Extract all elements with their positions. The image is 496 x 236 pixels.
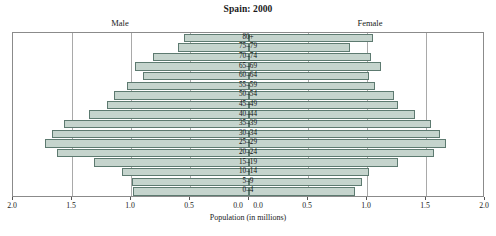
x-tick-male-0.5 [189,197,190,200]
pyramid-row: 55–59 [13,81,483,91]
series-label-female: Female [340,18,400,28]
pyramid-row: 20–24 [13,148,483,158]
bar-female-50–54 [249,91,394,99]
bar-male-0–4 [133,187,249,195]
bar-male-25–29 [45,139,249,147]
bar-female-5–9 [249,178,362,186]
bar-female-35–39 [249,120,431,128]
x-tick-female-0.5 [307,197,308,200]
bar-male-65–69 [135,62,249,70]
pyramid-row: 60–64 [13,71,483,81]
x-tick-label-male-1.5: 1.5 [66,201,76,210]
pyramid-row: 70–74 [13,52,483,62]
bar-male-50–54 [114,91,249,99]
x-tick-female-1.0 [366,197,367,200]
plot-area: 80+75–7970–7465–6960–6455–5950–5445–4940… [12,32,484,197]
bar-female-80+ [249,34,373,42]
pyramid-row: 50–54 [13,91,483,101]
age-group-label: 60–64 [239,71,257,80]
pyramid-row: 0–4 [13,187,483,197]
x-tick-label-female-1.0: 1.0 [361,201,371,210]
bar-female-70–74 [249,53,371,61]
age-group-label: 35–39 [239,119,257,128]
age-group-label: 0–4 [243,186,254,195]
age-group-label: 75–79 [239,42,257,51]
bar-female-0–4 [249,187,355,195]
age-group-label: 20–24 [239,148,257,157]
bar-male-35–39 [64,120,249,128]
bar-male-15–19 [94,158,249,166]
pyramid-row: 15–19 [13,158,483,168]
x-tick-label-male-1.0: 1.0 [125,201,135,210]
x-tick-label-male-0.0: 0.0 [233,201,243,210]
age-group-label: 55–59 [239,81,257,90]
bar-female-15–19 [249,158,398,166]
pyramid-row: 40–44 [13,110,483,120]
bar-female-65–69 [249,62,381,70]
x-axis-title: Population (in millions) [0,213,496,222]
pyramid-row: 75–79 [13,43,483,53]
x-tick-female-2.0 [484,197,485,200]
bar-female-55–59 [249,82,375,90]
pyramid-row: 35–39 [13,119,483,129]
x-tick-male-2.0 [12,197,13,200]
age-group-label: 45–49 [239,100,257,109]
pyramid-row: 65–69 [13,62,483,72]
age-group-label: 70–74 [239,52,257,61]
bar-male-80+ [184,34,249,42]
bar-female-60–64 [249,72,369,80]
bar-female-30–34 [249,130,440,138]
age-group-label: 25–29 [239,138,257,147]
bar-female-45–49 [249,101,398,109]
bar-female-75–79 [249,43,350,51]
bar-male-55–59 [127,82,249,90]
x-tick-female-0.0 [248,197,249,200]
pyramid-row: 25–29 [13,139,483,149]
bar-male-20–24 [57,149,249,157]
age-group-label: 40–44 [239,110,257,119]
series-label-male: Male [90,18,150,28]
x-tick-label-male-0.5: 0.5 [184,201,194,210]
age-group-label: 15–19 [239,158,257,167]
bar-male-60–64 [143,72,249,80]
pyramid-row: 5–9 [13,177,483,187]
age-group-label: 10–14 [239,167,257,176]
bar-male-45–49 [107,101,249,109]
bar-male-30–34 [52,130,249,138]
pyramid-row: 30–34 [13,129,483,139]
bar-rows: 80+75–7970–7465–6960–6455–5950–5445–4940… [13,33,483,196]
age-group-label: 5–9 [243,177,254,186]
x-tick-label-female-1.5: 1.5 [420,201,430,210]
age-group-label: 50–54 [239,90,257,99]
chart-title: Spain: 2000 [0,4,496,14]
bar-female-25–29 [249,139,446,147]
pyramid-row: 80+ [13,33,483,43]
x-tick-male-1.5 [71,197,72,200]
population-pyramid-chart: Spain: 2000 Male Female 80+75–7970–7465–… [0,0,496,236]
x-tick-label-female-0.5: 0.5 [302,201,312,210]
bar-male-5–9 [132,178,249,186]
bar-male-10–14 [122,168,249,176]
bar-male-70–74 [153,53,249,61]
pyramid-row: 10–14 [13,167,483,177]
bar-female-10–14 [249,168,369,176]
bar-male-40–44 [89,110,249,118]
x-tick-label-female-0.0: 0.0 [253,201,263,210]
x-tick-label-male-2.0: 2.0 [7,201,17,210]
bar-female-40–44 [249,110,415,118]
x-tick-male-1.0 [130,197,131,200]
x-tick-label-female-2.0: 2.0 [479,201,489,210]
age-group-label: 80+ [242,33,253,42]
age-group-label: 65–69 [239,62,257,71]
age-group-label: 30–34 [239,129,257,138]
x-tick-female-1.5 [425,197,426,200]
pyramid-row: 45–49 [13,100,483,110]
bar-female-20–24 [249,149,434,157]
